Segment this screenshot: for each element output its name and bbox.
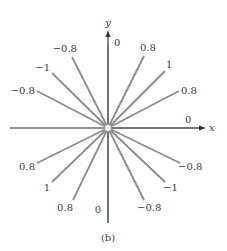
ray-down-left-1 <box>73 128 108 200</box>
ray-down-right-2-label: −1 <box>163 182 178 193</box>
ray-down-label: 0 <box>95 204 101 215</box>
x-axis-label: x <box>209 122 215 133</box>
ray-down-right-1-label: −0.8 <box>178 161 202 172</box>
ray-down-left-1-label: 0.8 <box>57 202 73 213</box>
ray-down-left-3-label: 0.8 <box>19 161 35 172</box>
ray-down-left-2 <box>52 128 108 182</box>
ray-up-label: 0 <box>114 37 120 48</box>
ray-up-left-3 <box>37 91 108 128</box>
figure-caption: (b) <box>101 232 115 243</box>
ray-down-left-3 <box>37 128 108 163</box>
origin-marker <box>105 125 111 131</box>
ray-up-left-1 <box>72 57 108 128</box>
ray-down-right-3-label: −0.8 <box>137 202 161 213</box>
ray-right-label: 0 <box>185 114 191 125</box>
diagram-canvas: x y 00.810.80−0.8−1−0.800.810.8−0.8−1−0.… <box>0 0 227 251</box>
ray-down-right-1 <box>108 128 180 163</box>
ray-up-left-2-label: −1 <box>35 62 50 73</box>
ray-up-left-3-label: −0.8 <box>11 85 35 96</box>
ray-up-left-1-label: −0.8 <box>53 43 77 54</box>
y-axis-label: y <box>104 17 111 28</box>
ray-up-right-1 <box>108 56 144 128</box>
ray-up-right-3-label: 0.8 <box>181 85 197 96</box>
ray-down-right-2 <box>108 128 165 182</box>
ray-up-left-2 <box>52 73 108 128</box>
ray-up-right-1-label: 0.8 <box>140 42 156 53</box>
rays <box>37 44 200 223</box>
y-axis-arrow-icon <box>106 30 111 37</box>
ray-up-right-2 <box>108 71 165 128</box>
radial-lines-diagram: x y 00.810.80−0.8−1−0.800.810.8−0.8−1−0.… <box>0 0 227 251</box>
ray-up-right-2-label: 1 <box>166 59 172 70</box>
x-axis-arrow-icon <box>199 126 206 131</box>
ray-down-right-3 <box>108 128 144 200</box>
ray-down-left-2-label: 1 <box>44 182 50 193</box>
ray-up-right-3 <box>108 91 179 128</box>
